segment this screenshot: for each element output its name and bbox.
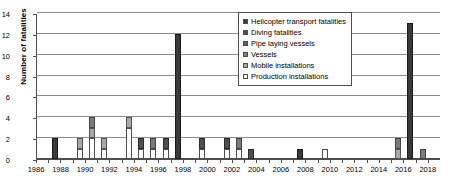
y-tick-label: 14	[0, 10, 10, 19]
bar-segment	[101, 138, 107, 148]
legend-item: Diving fatalities	[243, 27, 346, 38]
bar-2003	[248, 149, 254, 159]
x-tick-label: 1990	[77, 165, 94, 174]
y-tick-label: 10	[0, 51, 10, 60]
bar-segment	[138, 138, 144, 148]
bar-1991	[101, 138, 107, 159]
bar-segment	[395, 138, 401, 148]
y-tick-label: 8	[0, 72, 10, 81]
legend-swatch-icon	[243, 30, 248, 35]
bar-segment	[407, 23, 413, 159]
x-tick-mark	[391, 160, 392, 163]
y-tick-label: 6	[0, 93, 10, 102]
x-tick-mark	[122, 160, 123, 163]
x-tick-label: 2006	[273, 165, 290, 174]
x-tick-mark	[232, 160, 233, 163]
legend-item-label: Vessels	[251, 51, 277, 59]
x-tick-label: 1998	[175, 165, 192, 174]
x-tick-mark	[244, 160, 245, 163]
x-tick-mark	[183, 160, 184, 163]
x-tick-mark	[36, 160, 37, 163]
bar-1997	[175, 34, 181, 159]
x-tick-mark	[220, 160, 221, 163]
legend-item: Pipe laying vessels	[243, 38, 346, 49]
bar-segment	[297, 149, 303, 159]
legend-item: Helicopter transport fatalities	[243, 16, 346, 27]
bar-2009	[322, 149, 328, 159]
bar-segment	[77, 149, 83, 159]
bar-2015	[395, 138, 401, 159]
y-axis-title: Number of fatalities	[19, 0, 28, 103]
x-tick-mark	[207, 160, 208, 163]
bar-1993	[126, 117, 132, 159]
bar-2016	[407, 23, 413, 159]
x-tick-label: 2004	[248, 165, 265, 174]
x-tick-mark	[171, 160, 172, 163]
legend-swatch-icon	[243, 52, 248, 57]
bar-segment	[163, 138, 169, 148]
x-tick-mark	[318, 160, 319, 163]
x-axis: 1986198819901992199419961998200020022004…	[36, 160, 440, 186]
y-tick-label: 12	[0, 30, 10, 39]
bar-segment	[89, 138, 95, 159]
bar-segment	[420, 149, 426, 159]
x-tick-mark	[330, 160, 331, 163]
y-tick-mark	[33, 56, 36, 57]
x-tick-mark	[367, 160, 368, 163]
y-tick-mark	[33, 35, 36, 36]
bar-segment	[322, 149, 328, 159]
fatalities-bar-chart: Number of fatalities 02468101214 1986198…	[0, 0, 451, 186]
bar-1996	[163, 138, 169, 159]
x-tick-label: 1988	[52, 165, 69, 174]
x-tick-label: 1986	[28, 165, 45, 174]
x-tick-mark	[97, 160, 98, 163]
x-tick-mark	[158, 160, 159, 163]
x-tick-mark	[146, 160, 147, 163]
bar-1989	[77, 138, 83, 159]
bar-segment	[163, 149, 169, 159]
bar-1994	[138, 138, 144, 159]
bar-2017	[420, 149, 426, 159]
legend-item: Mobile installations	[243, 60, 346, 71]
legend-swatch-icon	[243, 19, 248, 24]
bar-segment	[224, 138, 230, 148]
bar-segment	[248, 149, 254, 159]
x-tick-label: 2018	[419, 165, 436, 174]
x-tick-mark	[256, 160, 257, 163]
bar-segment	[236, 149, 242, 159]
y-tick-mark	[33, 14, 36, 15]
bar-segment	[89, 128, 95, 138]
bar-1999	[199, 138, 205, 159]
bar-segment	[126, 117, 132, 127]
legend-item-label: Production installations	[251, 73, 328, 81]
legend-item-label: Diving fatalities	[251, 29, 301, 37]
x-tick-label: 2012	[346, 165, 363, 174]
x-tick-mark	[109, 160, 110, 163]
bar-1990	[89, 117, 95, 159]
chart-legend: Helicopter transport fatalitiesDiving fa…	[238, 12, 352, 86]
x-tick-mark	[416, 160, 417, 163]
x-tick-mark	[342, 160, 343, 163]
x-tick-mark	[85, 160, 86, 163]
legend-item: Production installations	[243, 71, 346, 82]
bar-segment	[52, 138, 58, 159]
bar-segment	[224, 149, 230, 159]
x-tick-mark	[403, 160, 404, 163]
x-tick-label: 1994	[126, 165, 143, 174]
x-tick-mark	[293, 160, 294, 163]
bar-2002	[236, 138, 242, 159]
legend-swatch-icon	[243, 74, 248, 79]
legend-item-label: Pipe laying vessels	[251, 40, 315, 48]
bar-segment	[138, 149, 144, 159]
x-tick-label: 2014	[370, 165, 387, 174]
x-tick-label: 1996	[150, 165, 167, 174]
bar-segment	[199, 149, 205, 159]
y-tick-mark	[33, 118, 36, 119]
bar-segment	[89, 117, 95, 127]
y-tick-label: 2	[0, 135, 10, 144]
x-tick-label: 2000	[199, 165, 216, 174]
x-tick-mark	[48, 160, 49, 163]
x-tick-mark	[60, 160, 61, 163]
bar-segment	[199, 138, 205, 148]
x-tick-mark	[379, 160, 380, 163]
